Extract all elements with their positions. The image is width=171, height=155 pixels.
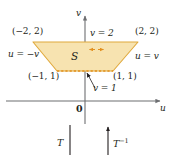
figure-canvas [0, 0, 171, 155]
map-label-T: T [57, 138, 63, 148]
origin-label: 0 [76, 104, 83, 114]
map-label-T-inverse: T−1 [113, 138, 129, 149]
edge-label-v-equals-2: v = 2 [90, 29, 114, 38]
edge-label-u-equals-neg-v: u = −v [8, 50, 39, 59]
region-label-S: S [71, 51, 78, 62]
vertex-label-bottom-right: (1, 1) [113, 72, 137, 81]
map-label-T-inverse-superscript: −1 [119, 137, 128, 145]
edge-label-v-equals-1: v = 1 [93, 84, 117, 93]
v-axis-label: v [76, 9, 81, 18]
edge-label-u-equals-v: u = v [135, 52, 159, 61]
uv-plane-figure: v u 0 (−2, 2) (2, 2) (1, 1) (−1, 1) v = … [0, 0, 171, 155]
vertex-label-top-right: (2, 2) [135, 27, 159, 36]
region-S-polygon [33, 42, 138, 71]
vertex-label-top-left: (−2, 2) [12, 27, 43, 36]
vertex-label-bottom-left: (−1, 1) [28, 72, 59, 81]
u-axis-label: u [160, 104, 166, 113]
